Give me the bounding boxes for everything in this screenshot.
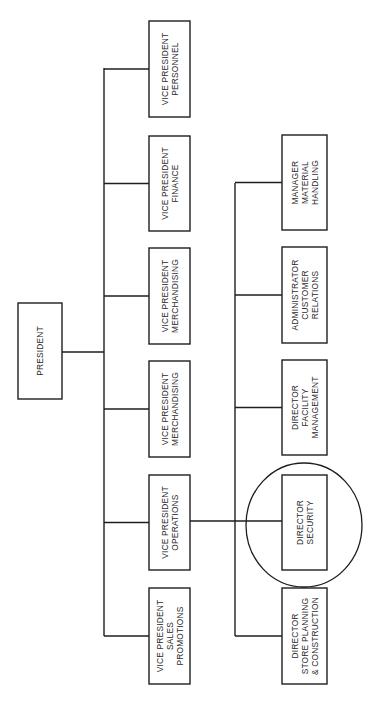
node-label-line: MANAGEMENT [310, 376, 320, 438]
node-label-line: MANAGER [290, 161, 300, 205]
node-label: VICE PRESIDENTMERCHANDISING [160, 259, 180, 333]
node-label-line: CUSTOMER [300, 270, 310, 319]
node-label-line: & CONSTRUCTION [310, 597, 320, 675]
org-node-admin-customer-relations: ADMINISTRATORCUSTOMERRELATIONS [282, 247, 327, 343]
node-label: VICE PRESIDENTOPERATIONS [160, 486, 180, 559]
node-label-line: PROMOTIONS [175, 606, 185, 665]
node-label-line: MERCHANDISING [170, 372, 180, 446]
org-node-vp-finance: VICE PRESIDENTFINANCE [149, 136, 190, 231]
org-node-president: PRESIDENT [18, 303, 62, 399]
node-label-line: SECURITY [305, 500, 315, 544]
node-label-line: FINANCE [170, 164, 180, 202]
node-label-line: FACILITY [300, 388, 310, 426]
node-label-line: MATERIAL [300, 161, 310, 204]
org-node-vp-merchandising-2: VICE PRESIDENTMERCHANDISING [149, 361, 190, 457]
node-label-line: MERCHANDISING [170, 259, 180, 333]
node-label-line: DIRECTOR [290, 613, 300, 658]
node-label-line: VICE PRESIDENT [160, 373, 170, 446]
node-label-line: VICE PRESIDENT [160, 260, 170, 333]
node-label-line: OPERATIONS [170, 494, 180, 551]
node-label-line: SALES [165, 622, 175, 650]
node-label: VICE PRESIDENTMERCHANDISING [160, 372, 180, 446]
node-label-line: HANDLING [310, 160, 320, 205]
org-chart: PRESIDENTVICE PRESIDENTPERSONNELVICE PRE… [0, 0, 380, 705]
node-label: VICE PRESIDENTPERSONNEL [160, 33, 180, 106]
node-label-line: STORE PLANNING [300, 598, 310, 675]
org-node-vp-merchandising-1: VICE PRESIDENTMERCHANDISING [149, 248, 190, 344]
node-label-line: VICE PRESIDENT [160, 486, 170, 559]
org-node-dir-security: DIRECTORSECURITY [282, 475, 327, 570]
node-label-line: VICE PRESIDENT [160, 147, 170, 220]
node-label-line: VICE PRESIDENT [155, 600, 165, 673]
org-node-vp-sales-promotions: VICE PRESIDENTSALESPROMOTIONS [149, 588, 190, 684]
org-node-dir-store-planning: DIRECTORSTORE PLANNING& CONSTRUCTION [282, 588, 327, 684]
node-label: MANAGERMATERIALHANDLING [290, 160, 320, 205]
node-label-line: ADMINISTRATOR [290, 259, 300, 330]
node-label-line: DIRECTOR [295, 500, 305, 545]
node-label-line: PERSONNEL [170, 42, 180, 96]
org-node-vp-operations: VICE PRESIDENTOPERATIONS [149, 475, 190, 570]
org-node-vp-personnel: VICE PRESIDENTPERSONNEL [149, 21, 190, 117]
node-label: DIRECTORSECURITY [295, 500, 315, 545]
node-label-line: PRESIDENT [35, 326, 45, 376]
org-node-mgr-material-handling: MANAGERMATERIALHANDLING [282, 135, 327, 230]
node-label-line: DIRECTOR [290, 385, 300, 430]
node-label-line: RELATIONS [310, 270, 320, 319]
node-label-line: VICE PRESIDENT [160, 33, 170, 106]
node-label: PRESIDENT [35, 326, 45, 376]
org-node-dir-facility-management: DIRECTORFACILITYMANAGEMENT [282, 360, 327, 455]
